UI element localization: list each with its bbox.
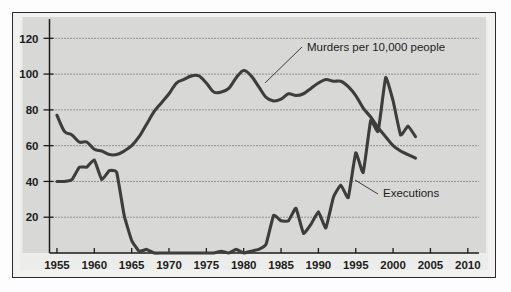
x-tick-label: 2010: [455, 259, 481, 271]
x-tick-label: 1965: [119, 259, 145, 271]
x-tick-label: 1955: [44, 259, 70, 271]
x-tick-label: 1960: [82, 259, 108, 271]
x-tick-label: 1980: [231, 259, 257, 271]
chart-figure: 20406080100120 1955196019651970197519801…: [0, 0, 511, 292]
annotation-murders-label: Murders per 10,000 people: [307, 41, 445, 53]
y-tick-label: 60: [26, 140, 39, 152]
x-tick-label: 1990: [306, 259, 332, 271]
x-tick-label: 2005: [418, 259, 444, 271]
y-tick-label: 20: [26, 211, 39, 223]
x-tick-label: 2000: [380, 259, 406, 271]
y-tick-label: 40: [26, 176, 39, 188]
x-tick-label: 1995: [343, 259, 369, 271]
chart-canvas: 20406080100120 1955196019651970197519801…: [0, 0, 511, 292]
x-tick-label: 1985: [268, 259, 294, 271]
x-tick-label: 1975: [194, 259, 220, 271]
y-tick-label: 100: [19, 68, 38, 80]
y-tick-label: 80: [26, 104, 39, 116]
annotation-executions-label: Executions: [383, 187, 440, 199]
y-tick-label: 120: [19, 33, 38, 45]
x-tick-label: 1970: [156, 259, 182, 271]
